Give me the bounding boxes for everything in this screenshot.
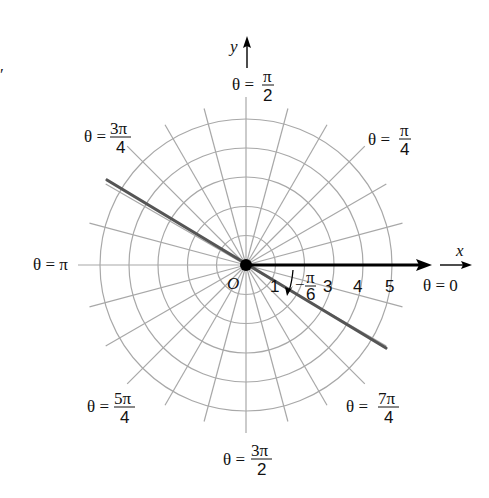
grid-ray — [246, 184, 386, 265]
radial-tick-5: 5 — [385, 277, 394, 296]
stray-mark: ʹ — [0, 65, 4, 84]
svg-text:4: 4 — [400, 140, 409, 159]
polar-diagram: x y O 1 3 4 5 − π 6 θ = π 2 θ = 3π 4 θ =… — [0, 0, 489, 498]
grid-ray — [90, 223, 247, 265]
label-theta-7pi-4: θ = 7π 4 — [346, 389, 399, 427]
grid-ray — [246, 109, 288, 266]
grid-ray — [204, 265, 246, 422]
label-theta-3pi-2: θ = 3π 2 — [223, 441, 272, 479]
grid-ray — [165, 125, 246, 265]
svg-text:6: 6 — [306, 285, 315, 304]
x-axis-label: x — [455, 241, 464, 260]
label-theta-pi-4: θ = π 4 — [368, 121, 411, 159]
svg-text:−: − — [295, 275, 305, 294]
radial-tick-4: 4 — [353, 277, 362, 296]
angle-minus-pi-6-label: − π 6 — [295, 268, 316, 304]
svg-text:3π: 3π — [251, 441, 269, 460]
svg-text:4: 4 — [384, 408, 393, 427]
label-theta-pi-2: θ = π 2 — [232, 67, 274, 105]
svg-text:3π: 3π — [110, 119, 128, 138]
svg-text:π: π — [263, 67, 272, 86]
origin-label: O — [227, 274, 239, 293]
origin-point — [240, 259, 252, 271]
svg-text:7π: 7π — [378, 389, 396, 408]
svg-text:θ =: θ = — [346, 397, 368, 416]
grid-ray — [246, 223, 403, 265]
svg-text:2: 2 — [257, 460, 266, 479]
y-axis-label: y — [228, 37, 238, 56]
svg-text:θ =: θ = — [87, 397, 109, 416]
radial-tick-1: 1 — [270, 277, 279, 296]
label-theta-0: θ = 0 — [423, 276, 458, 295]
svg-text:θ =: θ = — [84, 127, 106, 146]
svg-text:2: 2 — [263, 86, 272, 105]
svg-text:π: π — [400, 121, 409, 140]
grid-ray — [246, 125, 327, 265]
svg-text:θ = 0: θ = 0 — [423, 276, 458, 295]
polar-axis-arrow — [246, 259, 432, 271]
label-theta-pi: θ = π — [33, 255, 68, 274]
grid-ray — [246, 265, 288, 422]
svg-text:4: 4 — [116, 138, 125, 157]
svg-text:θ =: θ = — [232, 75, 254, 94]
grid-ray — [106, 265, 246, 346]
y-axis-arrow — [243, 36, 251, 68]
grid-ray — [90, 265, 247, 307]
svg-text:θ = π: θ = π — [33, 255, 68, 274]
x-axis-arrow — [440, 261, 472, 269]
svg-text:θ =: θ = — [223, 450, 245, 469]
svg-text:4: 4 — [120, 408, 129, 427]
svg-text:θ =: θ = — [368, 130, 390, 149]
label-theta-3pi-4: θ = 3π 4 — [84, 119, 131, 157]
label-theta-5pi-4: θ = 5π 4 — [87, 389, 135, 427]
svg-text:5π: 5π — [114, 389, 132, 408]
radial-tick-3: 3 — [323, 277, 332, 296]
